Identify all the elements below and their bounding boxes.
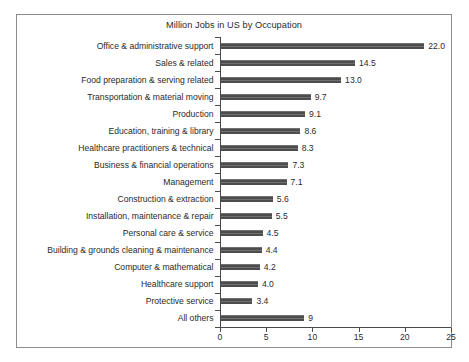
bar[interactable] xyxy=(221,230,263,236)
bar-track: 5.5 xyxy=(221,207,453,224)
bar-row: Construction & extraction5.6 xyxy=(17,190,453,207)
bar-track: 7.3 xyxy=(221,156,453,173)
bar-row: Office & administrative support22.0 xyxy=(17,37,453,54)
bar-value-label: 9.7 xyxy=(315,92,327,101)
category-label: Management xyxy=(163,178,213,187)
bar[interactable] xyxy=(221,196,273,202)
bar[interactable] xyxy=(221,77,341,83)
category-label: Production xyxy=(172,109,213,118)
bar[interactable] xyxy=(221,60,355,66)
bar-row: Business & financial operations7.3 xyxy=(17,156,453,173)
bar-value-label: 5.5 xyxy=(276,212,288,221)
category-label: Transportation & material moving xyxy=(87,92,213,101)
bar-row: Protective service3.4 xyxy=(17,293,453,310)
category-label: Building & grounds cleaning & maintenanc… xyxy=(47,246,213,255)
category-label: Food preparation & serving related xyxy=(81,75,213,84)
bar-value-label: 13.0 xyxy=(345,75,362,84)
x-axis-tick-label: 15 xyxy=(354,333,364,342)
plot-area: Office & administrative support22.0Sales… xyxy=(17,37,453,327)
bar-track: 7.1 xyxy=(221,173,453,190)
bar-row: Computer & mathematical4.2 xyxy=(17,259,453,276)
bar-track: 14.5 xyxy=(221,54,453,71)
x-axis: 0510152025 xyxy=(17,327,453,349)
category-label: Construction & extraction xyxy=(117,195,213,204)
bar[interactable] xyxy=(221,128,300,134)
bar-row: All others9 xyxy=(17,310,453,327)
bar[interactable] xyxy=(221,264,260,270)
bar-track: 9.1 xyxy=(221,105,453,122)
category-label: Office & administrative support xyxy=(97,41,214,50)
x-axis-tick-label: 20 xyxy=(400,333,410,342)
bar-track: 22.0 xyxy=(221,37,453,54)
bar-row: Personal care & service4.5 xyxy=(17,225,453,242)
bar-row: Transportation & material moving9.7 xyxy=(17,88,453,105)
bar[interactable] xyxy=(221,162,288,168)
bar-row: Healthcare practitioners & technical8.3 xyxy=(17,139,453,156)
category-label: Healthcare practitioners & technical xyxy=(78,144,213,153)
bar-row: Management7.1 xyxy=(17,173,453,190)
bar-row: Building & grounds cleaning & maintenanc… xyxy=(17,242,453,259)
bar-rows: Office & administrative support22.0Sales… xyxy=(17,37,453,327)
bar[interactable] xyxy=(221,281,258,287)
x-axis-tick-label: 0 xyxy=(218,333,223,342)
bar[interactable] xyxy=(221,179,287,185)
bar-row: Food preparation & serving related13.0 xyxy=(17,71,453,88)
category-label: Sales & related xyxy=(155,58,213,67)
bar-track: 4.0 xyxy=(221,276,453,293)
bar-track: 4.4 xyxy=(221,242,453,259)
bar-row: Installation, maintenance & repair5.5 xyxy=(17,207,453,224)
bar-track: 9.7 xyxy=(221,88,453,105)
bar-value-label: 4.0 xyxy=(262,280,274,289)
category-label: Installation, maintenance & repair xyxy=(86,212,214,221)
chart-title: Million Jobs in US by Occupation xyxy=(17,20,451,30)
category-label: Business & financial operations xyxy=(94,161,213,170)
x-axis-line xyxy=(220,327,451,328)
bar-value-label: 4.5 xyxy=(267,229,279,238)
category-label: Personal care & service xyxy=(123,229,214,238)
bar-value-label: 7.3 xyxy=(292,161,304,170)
bar-value-label: 5.6 xyxy=(277,195,289,204)
bar-value-label: 9 xyxy=(308,314,313,323)
bar-track: 5.6 xyxy=(221,190,453,207)
bar-value-label: 22.0 xyxy=(428,41,445,50)
bar-row: Sales & related14.5 xyxy=(17,54,453,71)
category-label: Healthcare support xyxy=(141,280,214,289)
bar[interactable] xyxy=(221,94,311,100)
bar-track: 3.4 xyxy=(221,293,453,310)
bar[interactable] xyxy=(221,315,304,321)
bar-track: 9 xyxy=(221,310,453,327)
bar[interactable] xyxy=(221,43,424,49)
bar-value-label: 7.1 xyxy=(291,178,303,187)
x-axis-tick-label: 25 xyxy=(446,333,456,342)
bar-value-label: 4.4 xyxy=(266,246,278,255)
bar-value-label: 8.6 xyxy=(304,126,316,135)
category-label: Computer & mathematical xyxy=(114,263,213,272)
bar-row: Healthcare support4.0 xyxy=(17,276,453,293)
bar[interactable] xyxy=(221,145,298,151)
bar[interactable] xyxy=(221,213,272,219)
bar[interactable] xyxy=(221,247,262,253)
bar-row: Education, training & library8.6 xyxy=(17,122,453,139)
bar-value-label: 9.1 xyxy=(309,109,321,118)
x-axis-tick-label: 10 xyxy=(308,333,318,342)
bar-track: 8.6 xyxy=(221,122,453,139)
bar-track: 8.3 xyxy=(221,139,453,156)
bar[interactable] xyxy=(221,111,305,117)
bar-value-label: 3.4 xyxy=(256,297,268,306)
bar[interactable] xyxy=(221,298,252,304)
bar-value-label: 4.2 xyxy=(264,263,276,272)
x-axis-tick-label: 5 xyxy=(264,333,269,342)
bar-track: 4.5 xyxy=(221,225,453,242)
chart-frame: Million Jobs in US by Occupation Office … xyxy=(16,14,452,348)
bar-track: 13.0 xyxy=(221,71,453,88)
category-label: Protective service xyxy=(146,297,214,306)
bar-track: 4.2 xyxy=(221,259,453,276)
bar-row: Production9.1 xyxy=(17,105,453,122)
category-label: Education, training & library xyxy=(108,126,213,135)
bar-value-label: 8.3 xyxy=(302,144,314,153)
category-label: All others xyxy=(178,314,214,323)
bar-value-label: 14.5 xyxy=(359,58,376,67)
